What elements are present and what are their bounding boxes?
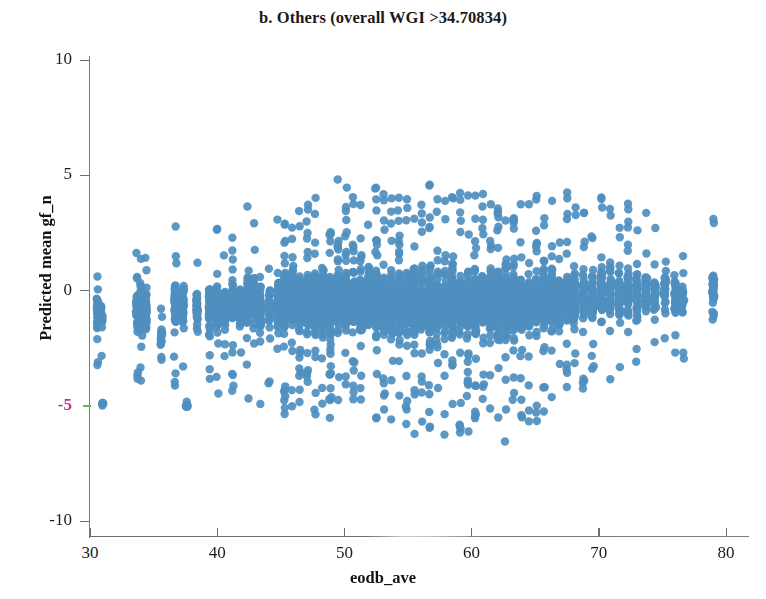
y-tick-5 [80,175,89,176]
y-tick-neg5 [83,405,91,407]
y-axis-spine [89,56,90,538]
x-tick-label-30: 30 [60,543,120,563]
x-tick-80 [726,528,727,537]
x-tick-70 [598,528,599,537]
y-axis-title: Predicted mean gf_n [36,118,56,418]
y-tick-0 [80,290,89,291]
y-tick-label-10: 10 [10,49,72,69]
chart-title: b. Others (overall WGI >34.70834) [0,8,766,28]
scatter-plot-figure: b. Others (overall WGI >34.70834) 1050-5… [0,0,766,599]
x-tick-30 [90,528,91,537]
scatter-points-layer [90,55,738,537]
x-tick-label-80: 80 [696,543,756,563]
x-axis-spine [89,536,749,537]
x-axis-title: eodb_ave [0,568,766,588]
y-tick-neg10 [80,521,89,522]
x-tick-50 [344,528,345,537]
x-tick-label-40: 40 [187,543,247,563]
y-tick-label-neg10: -10 [10,510,72,530]
x-tick-label-60: 60 [442,543,502,563]
x-tick-40 [217,528,218,537]
x-tick-60 [471,528,472,537]
x-tick-label-70: 70 [569,543,629,563]
y-tick-10 [80,60,89,61]
x-tick-label-50: 50 [314,543,374,563]
plot-area [90,55,738,537]
